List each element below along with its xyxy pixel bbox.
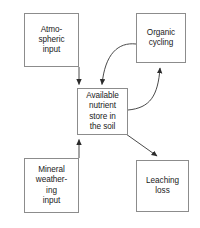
node-leaching-loss[interactable]: Leaching loss	[136, 160, 189, 212]
node-organic-cycling-label: Organic cycling	[146, 28, 176, 48]
node-atmospheric-input[interactable]: Atmo- spheric input	[24, 13, 79, 67]
edge-store-to-leaching	[126, 134, 157, 156]
nutrient-cycle-diagram: Atmo- spheric input Organic cycling Avai…	[0, 0, 200, 228]
node-mineral-weathering-input-label: Mineral weather- ing input	[35, 165, 68, 206]
edge-organic-to-store	[102, 44, 136, 85]
node-organic-cycling[interactable]: Organic cycling	[136, 13, 186, 63]
node-mineral-weathering-input[interactable]: Mineral weather- ing input	[24, 158, 79, 213]
node-available-nutrient-store[interactable]: Available nutrient store in the soil	[77, 88, 128, 135]
node-atmospheric-input-label: Atmo- spheric input	[37, 25, 65, 56]
node-leaching-loss-label: Leaching loss	[145, 176, 180, 196]
edge-store-to-organic	[128, 68, 160, 110]
node-available-nutrient-store-label: Available nutrient store in the soil	[85, 91, 120, 133]
